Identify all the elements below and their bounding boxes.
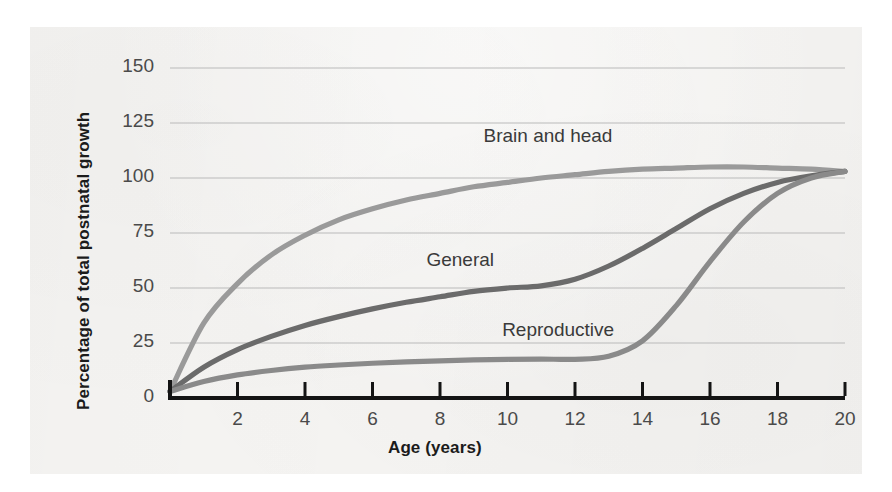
x-tick-label: 10 [478, 408, 538, 430]
x-tick-label: 14 [613, 408, 673, 430]
x-tick-label: 2 [208, 408, 268, 430]
curve-label-brain-and-head: Brain and head [484, 125, 613, 147]
curve-label-reproductive: Reproductive [502, 319, 614, 341]
y-tick-label: 0 [86, 385, 154, 407]
x-tick-label: 12 [545, 408, 605, 430]
y-axis-title: Percentage of total postnatal growth [74, 112, 94, 410]
x-tick-label: 16 [680, 408, 740, 430]
x-tick-label: 6 [343, 408, 403, 430]
x-tick-label: 20 [815, 408, 875, 430]
x-tick-label: 4 [275, 408, 335, 430]
curve-reproductive [170, 171, 845, 391]
x-tick-label: 18 [748, 408, 808, 430]
y-tick-label: 25 [86, 330, 154, 352]
x-tick-label: 8 [410, 408, 470, 430]
y-tick-label: 75 [86, 220, 154, 242]
y-tick-label: 125 [86, 110, 154, 132]
x-axis-title: Age (years) [388, 438, 482, 458]
y-tick-label: 150 [86, 55, 154, 77]
curve-label-general: General [426, 249, 494, 271]
y-tick-label: 100 [86, 165, 154, 187]
y-tick-label: 50 [86, 275, 154, 297]
figure-root: Percentage of total postnatal growth Age… [0, 0, 892, 492]
